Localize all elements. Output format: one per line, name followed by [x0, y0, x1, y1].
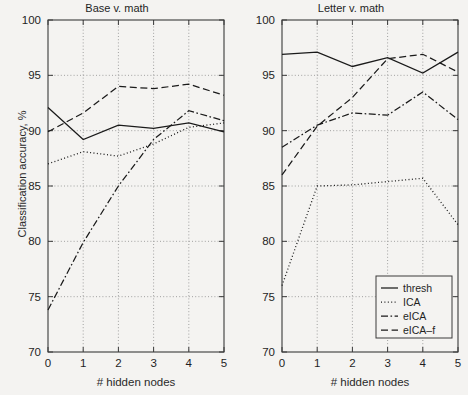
x-tick-label: 2 — [349, 357, 355, 369]
series-line-eica — [48, 111, 224, 310]
y-tick-label: 70 — [262, 346, 275, 358]
y-tick-label: 70 — [28, 346, 41, 358]
y-tick-label: 95 — [28, 69, 41, 81]
x-tick-label: 2 — [115, 357, 121, 369]
x-tick-label: 4 — [420, 357, 427, 369]
y-tick-label: 100 — [22, 14, 41, 26]
y-tick-label: 90 — [28, 125, 41, 137]
chart-panel-base-v-math: Base v. math 707580859095100012345# hidd… — [0, 0, 234, 395]
legend-label-ica: ICA — [403, 296, 421, 308]
y-tick-label: 75 — [28, 291, 41, 303]
y-tick-label: 80 — [28, 235, 41, 247]
figure-container: Classification accuracy, % Base v. math … — [0, 0, 468, 395]
chart-panel-letter-v-math: Letter v. math 707580859095100012345# hi… — [234, 0, 468, 395]
plot-area-right: 707580859095100012345# hidden nodesthres… — [234, 0, 468, 395]
x-axis-label: # hidden nodes — [331, 376, 410, 388]
legend-label-eica-f: eICA–f — [403, 324, 435, 336]
y-tick-label: 75 — [262, 291, 275, 303]
y-tick-label: 95 — [262, 69, 275, 81]
y-tick-label: 80 — [262, 235, 275, 247]
x-tick-label: 3 — [150, 357, 156, 369]
series-line-thresh — [48, 107, 224, 139]
y-tick-label: 85 — [28, 180, 41, 192]
y-tick-label: 100 — [256, 14, 275, 26]
x-tick-label: 5 — [221, 357, 227, 369]
x-tick-label: 5 — [455, 357, 461, 369]
x-tick-label: 0 — [45, 357, 51, 369]
series-line-thresh — [282, 52, 458, 73]
x-tick-label: 1 — [314, 357, 320, 369]
x-tick-label: 0 — [279, 357, 285, 369]
legend-label-eica: eICA — [403, 310, 426, 322]
x-tick-label: 3 — [384, 357, 390, 369]
y-tick-label: 85 — [262, 180, 275, 192]
x-axis-label: # hidden nodes — [97, 376, 176, 388]
legend-label-thresh: thresh — [403, 282, 432, 294]
x-tick-label: 4 — [186, 357, 193, 369]
plot-area-left: 707580859095100012345# hidden nodes — [0, 0, 234, 395]
series-line-ica — [48, 123, 224, 164]
y-tick-label: 90 — [262, 125, 275, 137]
x-tick-label: 1 — [80, 357, 86, 369]
series-line-ica — [282, 178, 458, 285]
